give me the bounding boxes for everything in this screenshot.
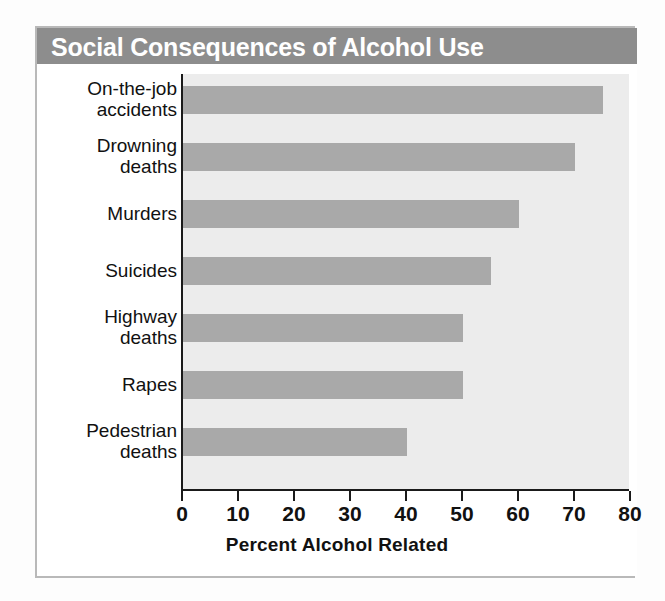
category-label-suicides: Suicides [0,260,177,281]
x-axis-tick [629,491,631,501]
category-label-line: Highway [0,306,177,327]
x-axis-tick-label: 80 [610,502,650,526]
x-axis-tick [237,491,239,501]
bar-suicides [183,257,491,285]
x-axis-tick [293,491,295,501]
chart-plot-container: On-the-job accidents Drowning deaths Mur… [37,64,637,576]
x-axis-tick [181,491,183,501]
category-label-line: Drowning [0,135,177,156]
category-label-drowning-deaths: Drowning deaths [0,135,177,177]
x-axis-tick-label: 70 [554,502,594,526]
category-label-on-the-job-accidents: On-the-job accidents [0,78,177,120]
bar-murders [183,200,519,228]
category-label-rapes: Rapes [0,374,177,395]
category-label-line: accidents [0,99,177,120]
x-axis-tick-label: 0 [162,502,202,526]
x-axis-tick [461,491,463,501]
x-axis-tick-label: 30 [330,502,370,526]
chart-frame: Social Consequences of Alcohol Use On-th… [35,26,635,578]
x-axis-tick-label: 40 [386,502,426,526]
category-label-line: deaths [0,156,177,177]
bar-drowning-deaths [183,143,575,171]
x-axis-tick-label: 50 [442,502,482,526]
x-axis-tick [573,491,575,501]
x-axis-tick [517,491,519,501]
bar-pedestrian-deaths [183,428,407,456]
category-label-line: Suicides [0,260,177,281]
x-axis-title: Percent Alcohol Related [37,534,637,556]
chart-title-bar: Social Consequences of Alcohol Use [37,28,637,64]
x-axis-tick-label: 60 [498,502,538,526]
category-label-line: Pedestrian [0,420,177,441]
x-axis-tick [349,491,351,501]
category-label-line: deaths [0,327,177,348]
bar-on-the-job-accidents [183,86,603,114]
bar-rapes [183,371,463,399]
category-label-line: deaths [0,441,177,462]
bar-highway-deaths [183,314,463,342]
category-label-highway-deaths: Highway deaths [0,306,177,348]
chart-figure: Social Consequences of Alcohol Use On-th… [0,0,665,601]
chart-title: Social Consequences of Alcohol Use [51,33,484,62]
category-label-pedestrian-deaths: Pedestrian deaths [0,420,177,462]
category-label-line: On-the-job [0,78,177,99]
category-label-murders: Murders [0,203,177,224]
x-axis-tick [405,491,407,501]
x-axis-tick-label: 20 [274,502,314,526]
category-label-line: Murders [0,203,177,224]
x-axis-tick-label: 10 [218,502,258,526]
category-label-line: Rapes [0,374,177,395]
